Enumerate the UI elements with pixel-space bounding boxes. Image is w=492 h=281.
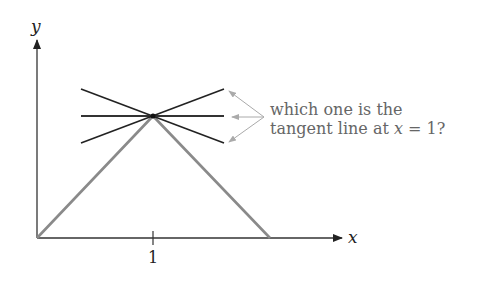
question-variable: x (394, 119, 403, 138)
y-axis-label: y (31, 16, 41, 36)
question-line-2-suffix: = 1? (403, 119, 445, 138)
question-line-2: tangent line at x = 1? (270, 119, 445, 138)
question-text: which one is the tangent line at x = 1? (270, 100, 445, 138)
pointer-arrow-bottom (229, 117, 264, 142)
question-line-2-prefix: tangent line at (270, 119, 394, 138)
function-graph (37, 116, 270, 238)
pointer-arrow-top (229, 91, 264, 117)
question-line-1: which one is the (270, 100, 445, 119)
x-axis-label: x (348, 227, 358, 247)
diagram-graphics (0, 0, 492, 281)
x-tick-label: 1 (148, 248, 158, 267)
peak-point (151, 114, 156, 119)
tangent-line-diagram: y x 1 which one is the tangent line at x… (0, 0, 492, 281)
